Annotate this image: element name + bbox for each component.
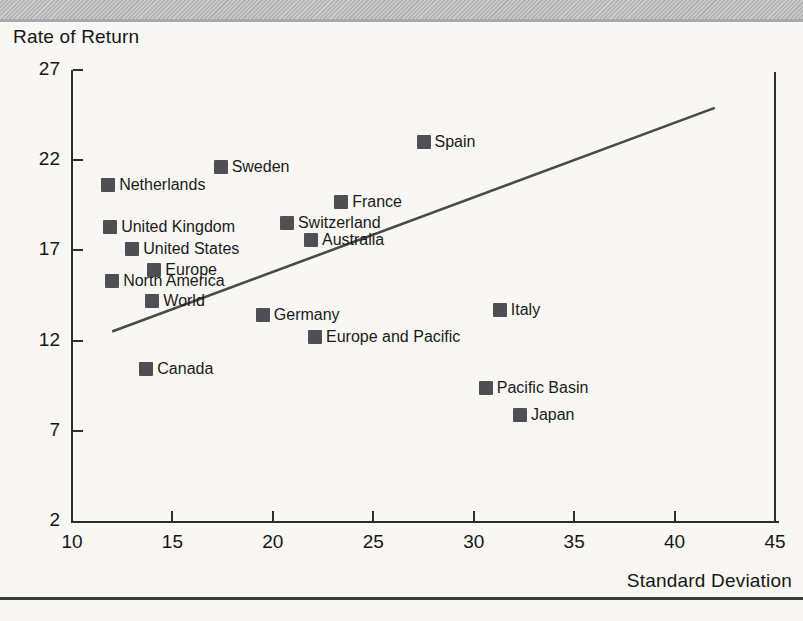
right-axis-line (774, 72, 776, 523)
point-label-japan: Japan (531, 405, 575, 425)
point-marker-north-america (105, 274, 119, 288)
point-marker-switzerland (280, 216, 294, 230)
y-tick-22 (73, 159, 83, 161)
x-tick-label-25: 25 (351, 531, 395, 553)
point-marker-canada (139, 362, 153, 376)
y-tick-7 (73, 430, 83, 432)
point-marker-germany (256, 308, 270, 322)
point-marker-europe-and-pacific (308, 330, 322, 344)
trend-line-svg (0, 0, 803, 621)
point-marker-australia (304, 233, 318, 247)
x-tick-35 (573, 511, 575, 521)
y-tick-12 (73, 340, 83, 342)
x-tick-label-15: 15 (150, 531, 194, 553)
point-label-canada: Canada (157, 359, 213, 379)
point-marker-europe (147, 263, 161, 277)
y-axis-line (71, 70, 73, 523)
x-tick-15 (171, 511, 173, 521)
point-label-spain: Spain (435, 132, 476, 152)
x-tick-label-40: 40 (653, 531, 697, 553)
point-label-pacific-basin: Pacific Basin (497, 378, 589, 398)
point-label-netherlands: Netherlands (119, 175, 205, 195)
y-tick-label-7: 7 (8, 419, 60, 441)
plot-area: 27121722271015202530354045NetherlandsUni… (0, 0, 803, 621)
y-tick-label-27: 27 (8, 58, 60, 80)
y-tick-label-12: 12 (8, 329, 60, 351)
x-tick-label-10: 10 (50, 531, 94, 553)
x-tick-label-30: 30 (452, 531, 496, 553)
point-marker-japan (513, 408, 527, 422)
x-tick-20 (272, 511, 274, 521)
scanned-page: Rate of Return 2712172227101520253035404… (0, 0, 803, 621)
point-marker-france (334, 195, 348, 209)
point-marker-united-states (125, 242, 139, 256)
point-label-united-kingdom: United Kingdom (121, 217, 235, 237)
x-tick-30 (473, 511, 475, 521)
point-label-united-states: United States (143, 239, 239, 259)
point-marker-netherlands (101, 178, 115, 192)
point-marker-italy (493, 303, 507, 317)
point-marker-spain (417, 135, 431, 149)
y-tick-label-17: 17 (8, 238, 60, 260)
point-label-sweden: Sweden (232, 157, 290, 177)
point-label-italy: Italy (511, 300, 540, 320)
point-label-world: World (163, 291, 205, 311)
y-tick-label-2: 2 (8, 509, 60, 531)
y-tick-17 (73, 249, 83, 251)
x-tick-label-45: 45 (753, 531, 797, 553)
point-label-germany: Germany (274, 305, 340, 325)
y-tick-label-22: 22 (8, 148, 60, 170)
x-tick-40 (674, 511, 676, 521)
x-tick-label-35: 35 (552, 531, 596, 553)
point-marker-united-kingdom (103, 220, 117, 234)
bottom-rule (0, 597, 803, 600)
point-label-europe: Europe (165, 260, 217, 280)
x-axis-line (71, 521, 779, 523)
point-label-europe-and-pacific: Europe and Pacific (326, 327, 460, 347)
y-tick-27 (73, 69, 83, 71)
point-marker-pacific-basin (479, 381, 493, 395)
point-label-france: France (352, 192, 402, 212)
x-axis-title: Standard Deviation (627, 570, 792, 592)
x-tick-label-20: 20 (251, 531, 295, 553)
point-marker-sweden (214, 160, 228, 174)
x-tick-25 (372, 511, 374, 521)
point-marker-world (145, 294, 159, 308)
point-label-australia: Australia (322, 230, 384, 250)
